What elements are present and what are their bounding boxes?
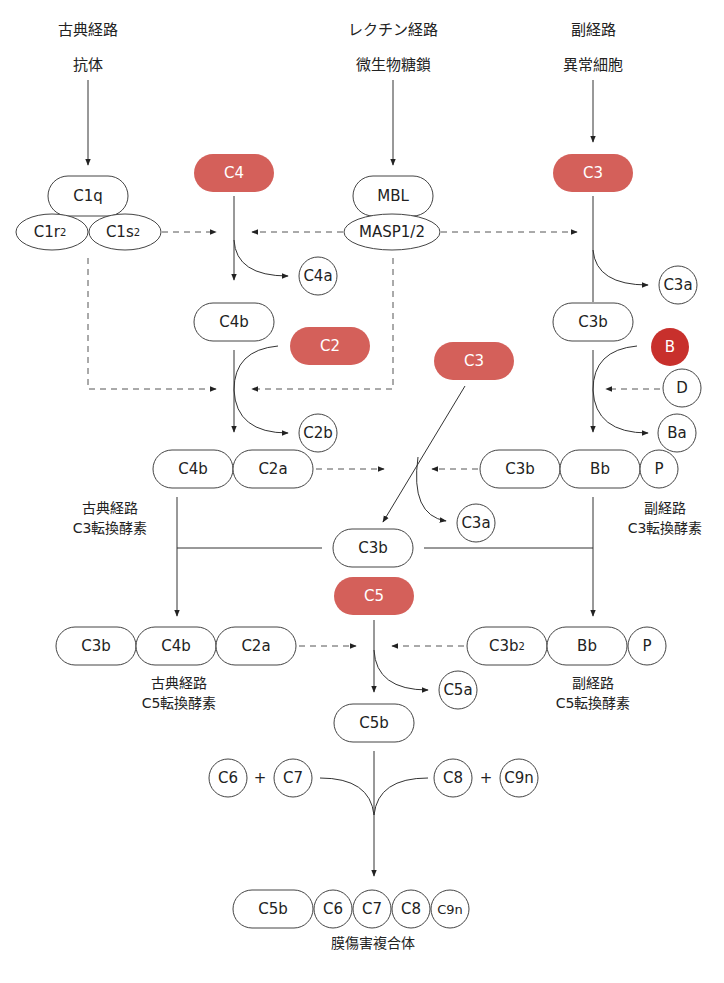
conv-c4b-label: C4b <box>178 460 208 478</box>
c2b-release-arrow <box>234 390 288 433</box>
c3-to-c3b-center-arrow <box>383 386 465 522</box>
c4a-label: C4a <box>303 267 332 285</box>
classical-pathway-trigger: 抗体 <box>73 56 103 74</box>
c3-mid-label: C3 <box>464 352 484 370</box>
membrane-attack-complex: C5b C6 C7 C8 C9n <box>233 890 469 928</box>
complement-pathway-diagram: 古典経路 抗体 レクチン経路 微生物糖鎖 副経路 異常細胞 C1q C1r2 C… <box>0 0 724 983</box>
factor-b-label: B <box>665 338 675 356</box>
alt-conv-c3b-label: C3b <box>505 460 535 478</box>
alt-c5-conv-label-1: 副経路 <box>572 675 614 691</box>
c6-c7-join-curve <box>320 778 374 815</box>
c5a-label: C5a <box>443 681 472 699</box>
c4-label: C4 <box>224 164 244 182</box>
c1-complex: C1q C1r2 C1s2 <box>16 176 161 250</box>
plus-sign-right: + <box>480 769 493 787</box>
lectin-pathway-trigger: 微生物糖鎖 <box>356 56 431 74</box>
classic-c3-conv-label-2: C3転換酵素 <box>73 520 148 536</box>
c5b-label: C5b <box>359 714 389 732</box>
alt-c5-convertase: C3b2 Bb P <box>467 627 666 665</box>
classic-c3-conv-label-1: 古典経路 <box>82 500 138 516</box>
lectin-pathway-header: レクチン経路 微生物糖鎖 <box>348 21 438 74</box>
c5a-release-arrow <box>374 650 428 690</box>
alt-c5conv-bb-label: Bb <box>577 637 597 655</box>
b-join-curve <box>593 346 637 390</box>
classic-c5-conv-label-1: 古典経路 <box>151 675 207 691</box>
c4a-release-arrow <box>234 240 288 276</box>
classic-c5-convertase: C3b C4b C2a <box>56 627 296 665</box>
c2-label: C2 <box>320 337 340 355</box>
c3a-mid-release-arrow <box>417 457 446 521</box>
c9n-label: C9n <box>504 769 534 787</box>
classic-c5-conv-label-2: C5転換酵素 <box>142 695 217 711</box>
mac-label: 膜傷害複合体 <box>331 935 415 951</box>
c5conv-c3b-label: C3b <box>81 637 111 655</box>
alternative-pathway-trigger: 異常細胞 <box>563 56 623 74</box>
c3a-mid-label: C3a <box>461 514 490 532</box>
c7-label: C7 <box>283 769 303 787</box>
c2b-label: C2b <box>303 424 333 442</box>
classical-pathway-header: 古典経路 抗体 <box>58 21 118 74</box>
lectin-pathway-title: レクチン経路 <box>348 21 438 39</box>
classical-pathway-title: 古典経路 <box>58 21 118 39</box>
mac-c8-label: C8 <box>401 900 421 918</box>
mbl-label: MBL <box>377 187 409 205</box>
ba-release-arrow <box>593 390 648 433</box>
c1q-label: C1q <box>73 187 103 205</box>
c5conv-c4b-label: C4b <box>161 637 191 655</box>
c5conv-c2a-label: C2a <box>241 637 270 655</box>
alt-c5-conv-label-2: C5転換酵素 <box>556 695 631 711</box>
alt-conv-p-label: P <box>654 460 663 478</box>
alt-c3-conv-label-2: C3転換酵素 <box>628 520 703 536</box>
c5-label: C5 <box>364 587 384 605</box>
alt-c5conv-p-label: P <box>642 637 651 655</box>
c3a-release-arrow <box>593 250 648 285</box>
factor-d-label: D <box>676 379 688 397</box>
c2-join-curve <box>234 346 278 390</box>
c3-alt-label: C3 <box>583 164 603 182</box>
mac-c5b-label: C5b <box>258 900 288 918</box>
alt-c3-convertase: C3b Bb P <box>480 450 678 488</box>
alt-conv-bb-label: Bb <box>590 460 610 478</box>
c3a-top-label: C3a <box>663 276 692 294</box>
mac-c7-label: C7 <box>362 900 382 918</box>
plus-sign-left: + <box>254 769 267 787</box>
mac-c6-label: C6 <box>323 900 343 918</box>
ba-label: Ba <box>667 424 686 442</box>
alternative-pathway-header: 副経路 異常細胞 <box>563 21 623 74</box>
c8-c9n-join-curve <box>374 778 428 815</box>
mbl-masp-complex: MBL MASP1/2 <box>344 176 440 250</box>
mac-c9n-label: C9n <box>437 902 463 917</box>
masp-label: MASP1/2 <box>359 223 425 241</box>
classic-c3-convertase: C4b C2a <box>153 450 313 488</box>
alternative-pathway-title: 副経路 <box>571 21 616 39</box>
alt-c3-conv-label-1: 副経路 <box>644 500 686 516</box>
conv-c2a-label: C2a <box>258 460 287 478</box>
c8-label: C8 <box>443 769 463 787</box>
c3b-center-label: C3b <box>358 539 388 557</box>
c3b-alt-label: C3b <box>578 313 608 331</box>
c4b-label: C4b <box>219 313 249 331</box>
c6-label: C6 <box>218 769 238 787</box>
